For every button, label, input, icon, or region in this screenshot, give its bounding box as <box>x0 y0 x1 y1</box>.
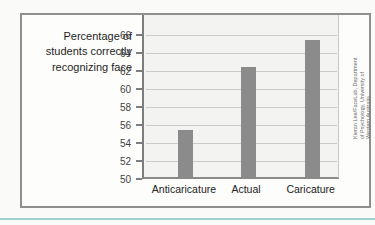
y-tick-label: 64 <box>107 49 131 59</box>
photo-credit-line: Kieran Lee/FaceLab, Department <box>352 21 359 139</box>
x-axis-labels: AnticaricatureActualCaricature <box>142 181 339 197</box>
y-tick-label: 56 <box>107 121 131 131</box>
y-tick-label: 60 <box>107 85 131 95</box>
y-tick-label: 52 <box>107 157 131 167</box>
y-tick-label: 58 <box>107 103 131 113</box>
y-axis-tick-area: 666462605856545250 <box>106 15 138 179</box>
bar-caricature <box>305 40 320 178</box>
bar-actual <box>241 67 256 178</box>
y-tick-label: 50 <box>107 175 131 185</box>
photo-credit: Kieran Lee/FaceLab, Department of Psycho… <box>352 21 369 141</box>
x-category-label: Caricature <box>266 184 356 195</box>
photo-credit-line: Western Australia <box>365 21 372 139</box>
bar-anticaricature <box>178 130 193 178</box>
plot-area <box>142 15 339 179</box>
bottom-rule <box>0 218 375 220</box>
figure-box: Percentage of students correctly recogni… <box>20 13 371 208</box>
y-tick-label: 54 <box>107 139 131 149</box>
gridline <box>146 35 337 36</box>
y-tick-label: 66 <box>107 31 131 41</box>
photo-credit-line: of Psychology, University of <box>359 21 366 139</box>
photo-credit-text: Kieran Lee/FaceLab, Department of Psycho… <box>352 21 372 139</box>
page: Percentage of students correctly recogni… <box>0 0 375 225</box>
y-tick-label: 62 <box>107 67 131 77</box>
